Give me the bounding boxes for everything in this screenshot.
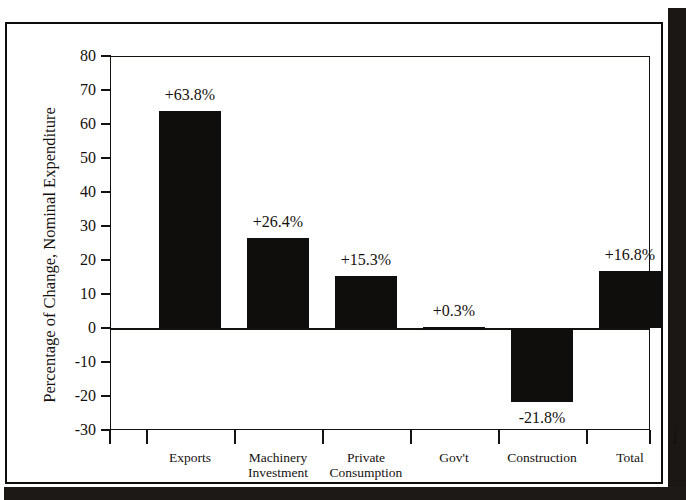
x-tick-mark xyxy=(410,430,412,444)
scanned-page: Percentage of Change, Nominal Expenditur… xyxy=(0,0,686,500)
y-tick-mark xyxy=(101,55,111,57)
y-tick-mark xyxy=(101,89,111,91)
y-tick-mark xyxy=(101,259,111,261)
bar-value-label: +16.8% xyxy=(560,247,686,263)
bar xyxy=(335,276,397,328)
y-tick-label: 30 xyxy=(46,218,96,234)
bar-value-label: +63.8% xyxy=(120,87,261,103)
bar xyxy=(423,327,485,330)
y-tick-mark xyxy=(101,395,111,397)
y-tick-mark xyxy=(101,191,111,193)
x-tick-mark xyxy=(146,430,148,444)
x-tick-mark-edge xyxy=(649,430,651,444)
y-tick-label: -30 xyxy=(46,422,96,438)
y-tick-mark xyxy=(101,157,111,159)
x-tick-mark xyxy=(674,430,676,444)
y-tick-label: 20 xyxy=(46,252,96,268)
x-axis-category-label: Total xyxy=(564,450,686,465)
bar xyxy=(511,328,573,402)
y-tick-label: 10 xyxy=(46,286,96,302)
bar-chart: Percentage of Change, Nominal Expenditur… xyxy=(0,0,686,500)
y-tick-label: -10 xyxy=(46,354,96,370)
y-tick-label: -20 xyxy=(46,388,96,404)
y-tick-mark xyxy=(101,361,111,363)
y-tick-label: 60 xyxy=(46,116,96,132)
y-tick-mark xyxy=(101,327,111,329)
bar xyxy=(599,271,661,328)
x-tick-mark xyxy=(498,430,500,444)
bar-value-label: +0.3% xyxy=(384,303,525,319)
x-axis-label-line: Total xyxy=(564,450,686,465)
y-tick-mark xyxy=(101,293,111,295)
y-tick-label: 0 xyxy=(46,320,96,336)
x-axis-label-line: Consumption xyxy=(300,465,432,480)
y-tick-mark xyxy=(101,225,111,227)
y-tick-label: 80 xyxy=(46,48,96,64)
x-tick-mark-edge xyxy=(109,430,111,444)
x-tick-mark xyxy=(586,430,588,444)
y-tick-label: 50 xyxy=(46,150,96,166)
y-tick-label: 40 xyxy=(46,184,96,200)
bar-value-label: +15.3% xyxy=(296,252,437,268)
y-tick-mark xyxy=(101,123,111,125)
bar-value-label: +26.4% xyxy=(208,214,349,230)
bar-value-label: -21.8% xyxy=(472,410,613,426)
x-tick-mark xyxy=(234,430,236,444)
x-tick-mark xyxy=(322,430,324,444)
y-tick-label: 70 xyxy=(46,82,96,98)
